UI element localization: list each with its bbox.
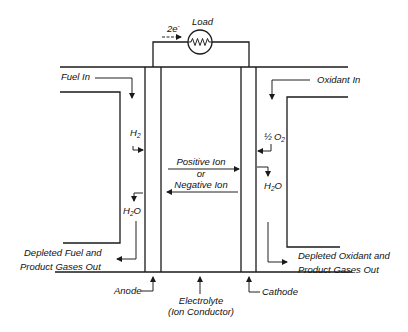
electron-label: 2e-	[166, 22, 181, 34]
ion-or-label: or	[197, 168, 206, 179]
cathode	[241, 67, 256, 272]
oxidant-out-label-1: Depleted Oxidant and	[298, 250, 391, 261]
load-label: Load	[192, 16, 214, 27]
h2o-left-label: H2O	[123, 205, 142, 217]
fuel-out-label-1: Depleted Fuel and	[24, 247, 102, 258]
negative-ion-label: Negative Ion	[174, 179, 227, 190]
oxidant-in-label: Oxidant In	[317, 74, 360, 85]
fuel-in-arrow	[95, 78, 132, 98]
h2o-right-label: H2O	[264, 180, 283, 192]
cathode-pointer	[249, 277, 260, 292]
electrolyte-label: Electrolyte	[179, 295, 223, 306]
load-icon	[188, 30, 212, 54]
positive-ion-label: Positive Ion	[176, 156, 225, 167]
h2-arrow	[133, 146, 143, 150]
oxidant-channel-wall	[287, 97, 348, 247]
oxidant-in-arrow	[272, 80, 310, 99]
o2-label: ½O2	[264, 131, 285, 143]
resistor-icon	[188, 39, 212, 46]
anode-pointer	[141, 277, 153, 291]
o2-arrow	[258, 144, 271, 151]
fuel-channel-wall	[60, 92, 120, 243]
anode-label: Anode	[113, 285, 141, 296]
h2o-left-arrow	[134, 193, 143, 201]
oxidant-out-arrow	[268, 222, 287, 262]
ion-conductor-label: (Ion Conductor)	[168, 306, 234, 317]
fuel-cell-diagram: Load 2e- Fuel In H2 H2O Depleted Fuel an…	[0, 0, 408, 332]
fuel-in-label: Fuel In	[61, 71, 90, 82]
h2-label: H2	[130, 127, 141, 139]
oxidant-out-label-2: Product Gases Out	[298, 264, 379, 275]
external-circuit	[153, 30, 249, 67]
fuel-out-label-2: Product Gases Out	[20, 261, 101, 272]
h2o-right-arrow	[257, 167, 268, 176]
anode	[145, 67, 161, 272]
cathode-label: Cathode	[262, 286, 298, 297]
